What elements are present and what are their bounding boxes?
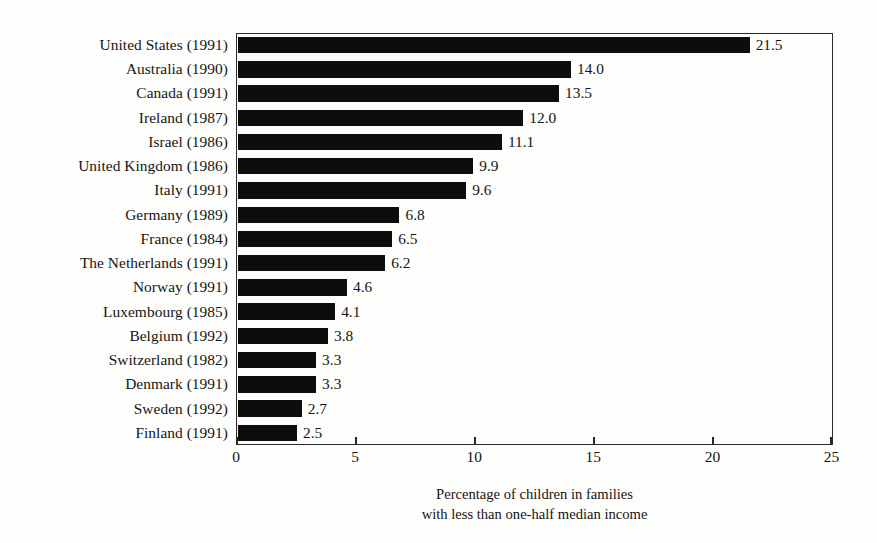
bar-row: Finland (1991)2.5: [0, 421, 877, 445]
bar: [238, 110, 524, 126]
x-tick-label: 0: [206, 448, 266, 466]
category-label: Finland (1991): [0, 421, 228, 445]
bar-value-label: 4.6: [347, 275, 372, 299]
category-label: Denmark (1991): [0, 372, 228, 396]
bar: [238, 134, 502, 150]
bar: [238, 376, 317, 392]
bar: [238, 85, 560, 101]
category-label: Sweden (1992): [0, 397, 228, 421]
bar-value-label: 3.3: [316, 372, 341, 396]
bar-row: Belgium (1992)3.8: [0, 324, 877, 348]
chart-page: United States (1991)21.5Australia (1990)…: [0, 0, 877, 543]
bar-row: Israel (1986)11.1: [0, 130, 877, 154]
bar-value-label: 6.5: [392, 227, 417, 251]
bar: [238, 303, 336, 319]
bar: [238, 279, 348, 295]
bar-row: Australia (1990)14.0: [0, 57, 877, 81]
bar-row: Switzerland (1982)3.3: [0, 348, 877, 372]
x-tick-mark: [474, 437, 476, 445]
bar-row: France (1984)6.5: [0, 227, 877, 251]
category-label: Norway (1991): [0, 275, 228, 299]
x-axis: 0510152025: [236, 445, 833, 485]
bar-value-label: 2.5: [297, 421, 322, 445]
bar: [238, 158, 474, 174]
bar-value-label: 2.7: [302, 397, 327, 421]
bar-row: United Kingdom (1986)9.9: [0, 154, 877, 178]
bar-row: Norway (1991)4.6: [0, 275, 877, 299]
x-tick-mark: [830, 437, 832, 445]
x-tick-label: 25: [802, 448, 862, 466]
bar-value-label: 14.0: [571, 57, 604, 81]
bar-value-label: 6.2: [385, 251, 410, 275]
bar-value-label: 21.5: [750, 33, 783, 57]
category-label: United Kingdom (1986): [0, 154, 228, 178]
category-label: France (1984): [0, 227, 228, 251]
bar-value-label: 12.0: [523, 106, 556, 130]
category-label: Italy (1991): [0, 178, 228, 202]
bar-row: Canada (1991)13.5: [0, 81, 877, 105]
bar-value-label: 6.8: [399, 203, 424, 227]
x-tick-mark: [236, 437, 238, 445]
x-tick-mark: [712, 437, 714, 445]
bar: [238, 231, 393, 247]
bar: [238, 400, 302, 416]
bar: [238, 255, 386, 271]
category-label: Australia (1990): [0, 57, 228, 81]
bar-row: Sweden (1992)2.7: [0, 397, 877, 421]
category-label: Belgium (1992): [0, 324, 228, 348]
category-label: Switzerland (1982): [0, 348, 228, 372]
bar-rows-container: United States (1991)21.5Australia (1990)…: [0, 33, 877, 445]
bar-value-label: 13.5: [559, 81, 592, 105]
category-label: Germany (1989): [0, 203, 228, 227]
bar: [238, 352, 317, 368]
x-axis-caption: Percentage of children in familieswith l…: [236, 484, 833, 524]
bar-value-label: 4.1: [335, 300, 360, 324]
bar-value-label: 3.8: [328, 324, 353, 348]
x-tick-label: 5: [325, 448, 385, 466]
x-tick-label: 20: [682, 448, 742, 466]
category-label: Luxembourg (1985): [0, 300, 228, 324]
bar-value-label: 3.3: [316, 348, 341, 372]
bar: [238, 37, 750, 53]
bar-row: Germany (1989)6.8: [0, 203, 877, 227]
bar-row: United States (1991)21.5: [0, 33, 877, 57]
x-tick-label: 15: [563, 448, 623, 466]
bar-row: Luxembourg (1985)4.1: [0, 300, 877, 324]
bar: [238, 425, 298, 441]
x-tick-mark: [355, 437, 357, 445]
caption-line: with less than one-half median income: [236, 504, 833, 524]
x-tick-label: 10: [444, 448, 504, 466]
bar: [238, 61, 571, 77]
bar-row: Italy (1991)9.6: [0, 178, 877, 202]
bar-row: Ireland (1987)12.0: [0, 106, 877, 130]
bar-value-label: 11.1: [502, 130, 534, 154]
bar-value-label: 9.6: [466, 178, 491, 202]
x-tick-mark: [593, 437, 595, 445]
category-label: The Netherlands (1991): [0, 251, 228, 275]
category-label: Canada (1991): [0, 81, 228, 105]
category-label: Ireland (1987): [0, 106, 228, 130]
category-label: United States (1991): [0, 33, 228, 57]
bar-row: The Netherlands (1991)6.2: [0, 251, 877, 275]
bar-value-label: 9.9: [473, 154, 498, 178]
bar-row: Denmark (1991)3.3: [0, 372, 877, 396]
bar: [238, 328, 329, 344]
category-label: Israel (1986): [0, 130, 228, 154]
bar: [238, 207, 400, 223]
caption-line: Percentage of children in families: [236, 484, 833, 504]
bar: [238, 182, 467, 198]
